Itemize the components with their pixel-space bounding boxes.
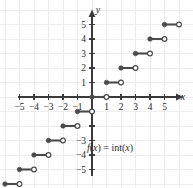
closed-endpoint-dot [3, 182, 8, 187]
closed-endpoint-dot [148, 37, 153, 42]
x-tick-label: 3 [133, 102, 138, 112]
x-axis-label: x [180, 91, 186, 102]
closed-endpoint-dot [119, 66, 124, 71]
x-tick-label: −2 [58, 102, 68, 112]
y-tick-label: −5 [76, 165, 86, 175]
x-tick-label: −4 [29, 102, 39, 112]
closed-endpoint-dot [17, 167, 22, 172]
open-endpoint-circle [32, 167, 37, 172]
y-tick-label: 5 [81, 20, 86, 30]
coordinate-plane: −5−4−3−2−11234554321−3−4−5 x y f(x) = in… [0, 0, 193, 188]
y-tick-label: 2 [81, 63, 86, 73]
open-endpoint-circle [119, 80, 124, 85]
function-equation-label: f(x) = int(x) [87, 142, 133, 154]
x-tick-label: −5 [14, 102, 24, 112]
open-endpoint-circle [133, 66, 138, 71]
closed-endpoint-dot [75, 109, 80, 114]
closed-endpoint-dot [90, 95, 95, 100]
open-endpoint-circle [104, 95, 109, 100]
y-tick-label: 4 [81, 34, 86, 44]
y-tick-label: −3 [76, 136, 86, 146]
open-endpoint-circle [75, 124, 80, 129]
closed-endpoint-dot [133, 51, 138, 56]
closed-endpoint-dot [32, 153, 37, 158]
x-tick-label: −3 [43, 102, 53, 112]
closed-endpoint-dot [104, 80, 109, 85]
y-axis-arrowhead [89, 10, 96, 18]
open-endpoint-circle [17, 182, 22, 187]
x-tick-label: 4 [148, 102, 153, 112]
closed-endpoint-dot [61, 124, 66, 129]
open-endpoint-circle [177, 22, 182, 27]
open-endpoint-circle [61, 138, 66, 143]
graph-figure: −5−4−3−2−11234554321−3−4−5 x y f(x) = in… [0, 0, 193, 188]
y-tick-label: 1 [81, 78, 86, 88]
open-endpoint-circle [162, 37, 167, 42]
open-endpoint-circle [46, 153, 51, 158]
x-tick-label: 2 [119, 102, 124, 112]
y-axis-label: y [95, 4, 101, 15]
open-endpoint-circle [148, 51, 153, 56]
open-endpoint-circle [90, 109, 95, 114]
closed-endpoint-dot [162, 22, 167, 27]
closed-endpoint-dot [46, 138, 51, 143]
y-tick-label: 3 [81, 49, 86, 59]
x-tick-label: 1 [104, 102, 109, 112]
x-tick-label: 5 [162, 102, 167, 112]
y-tick-label: −4 [76, 150, 86, 160]
